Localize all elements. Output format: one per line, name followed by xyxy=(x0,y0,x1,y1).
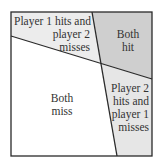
label-both-hit: Both hit xyxy=(108,28,148,54)
label-line: player 2 xyxy=(14,28,90,41)
label-p1-hits-p2-misses: Player 1 hits and player 2 misses xyxy=(14,15,90,54)
label-line: hits and xyxy=(106,95,149,108)
label-line: hit xyxy=(108,41,148,54)
label-line: Both xyxy=(42,92,82,105)
label-line: misses xyxy=(106,121,149,134)
label-both-miss: Both miss xyxy=(42,92,82,118)
label-line: Player 1 hits and xyxy=(14,15,90,28)
label-p2-hits-p1-misses: Player 2 hits and player 1 misses xyxy=(106,82,149,134)
label-line: player 1 xyxy=(106,108,149,121)
label-line: Both xyxy=(108,28,148,41)
label-line: miss xyxy=(42,105,82,118)
label-line: Player 2 xyxy=(106,82,149,95)
label-line: misses xyxy=(14,41,90,54)
